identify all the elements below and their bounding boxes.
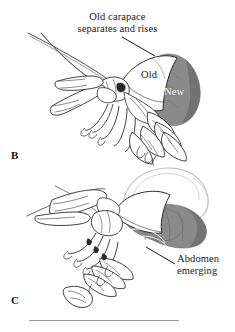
panel-label-b: B <box>11 149 18 161</box>
panel-b-illustration <box>0 0 235 332</box>
head-c <box>91 211 122 236</box>
panel-b-group <box>28 33 200 166</box>
leg-tip-cluster <box>81 128 105 145</box>
abdomen-caption: Abdomen emerging <box>177 253 219 278</box>
new-shell-label: New <box>164 86 184 98</box>
leader-line-bottom <box>146 247 175 264</box>
walking-leg-1 <box>85 104 108 130</box>
walking-leg-2 <box>101 106 119 139</box>
tail-fan-c <box>63 286 92 307</box>
bottom-divider-rule <box>29 320 179 321</box>
panel-c-group <box>27 168 208 307</box>
panel-label-c: C <box>11 294 19 306</box>
old-carapace-caption-line-1: Old carapace <box>0 11 235 23</box>
joint-marks-c <box>87 238 108 260</box>
walking-leg-1b <box>92 104 113 132</box>
leg-c-1 <box>68 233 96 253</box>
leader-line-top <box>122 37 155 56</box>
old-carapace-caption: Old carapace separates and rises <box>0 11 235 35</box>
abdomen-caption-line-1: Abdomen <box>177 253 219 265</box>
old-shell-label: Old <box>141 69 157 81</box>
figure-root: Old carapace separates and rises Old New… <box>0 0 235 332</box>
eye-stalk <box>117 83 126 92</box>
old-carapace-caption-line-2: separates and rises <box>0 23 235 35</box>
abdomen-caption-line-2: emerging <box>177 265 219 277</box>
walking-leg-3 <box>114 108 127 146</box>
